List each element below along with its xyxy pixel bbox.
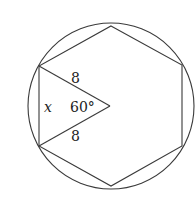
hexagon-diagram: 8 8 60° x: [0, 0, 195, 208]
angle-label: 60°: [70, 99, 95, 115]
inscribed-hexagon: [39, 26, 182, 186]
unknown-side-label: x: [44, 99, 52, 115]
upper-side-label: 8: [71, 70, 80, 86]
lower-side-label: 8: [71, 128, 80, 144]
circumscribed-circle: [28, 23, 194, 189]
